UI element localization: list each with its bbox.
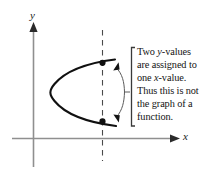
- y-axis: [29, 22, 37, 167]
- callout-line: are assigned to: [137, 59, 211, 72]
- math-variable: y: [157, 46, 161, 57]
- upper-intersection-point: [99, 60, 105, 66]
- figure-canvas: y x Two y-valuesare assigned toone x-val…: [0, 0, 213, 171]
- y-axis-label: y: [30, 10, 35, 21]
- upper-leader-arrow: [113, 62, 124, 92]
- callout-text-block: Two y-valuesare assigned toone x-value.T…: [137, 46, 211, 123]
- x-axis-label: x: [183, 131, 188, 142]
- callout-line: Thus this is not: [137, 85, 211, 98]
- callout-line: Two y-values: [137, 46, 211, 59]
- lower-leader-arrow: [113, 92, 124, 123]
- lower-intersection-point: [99, 118, 105, 124]
- callout-line: one x-value.: [137, 72, 211, 85]
- parabola-curve: [50, 60, 116, 127]
- callout-line: function.: [137, 111, 211, 124]
- text-left-bracket: [132, 48, 136, 127]
- math-variable: x: [154, 72, 158, 83]
- callout-line: the graph of a: [137, 98, 211, 111]
- x-axis: [12, 134, 180, 142]
